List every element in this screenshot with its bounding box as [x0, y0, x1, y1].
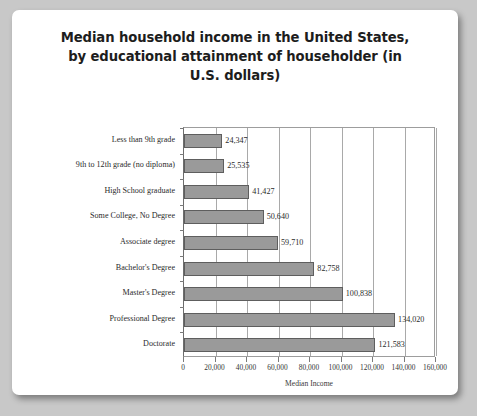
chart-title-line-2: by educational attainment of householder… [36, 47, 434, 66]
category-label: Some College, No Degree [90, 210, 175, 222]
x-axis-tick [404, 357, 405, 362]
x-axis-tick [246, 357, 247, 362]
category-label: Bachelor's Degree [116, 262, 175, 274]
category-tick [180, 307, 184, 308]
x-axis-tick-label: 20,000 [204, 363, 224, 373]
x-axis-tick-label: 60,000 [267, 363, 287, 373]
gridline [436, 128, 437, 356]
category-tick [180, 205, 184, 206]
category-tick [180, 332, 184, 333]
chart-title-line-3: U.S. dollars) [36, 66, 434, 85]
bar [184, 313, 395, 327]
x-axis-tick [215, 357, 216, 362]
category-tick [180, 128, 184, 129]
x-axis-title: Median Income [183, 379, 435, 388]
category-label: Less than 9th grade [112, 134, 175, 146]
category-label: Professional Degree [110, 313, 175, 325]
bar [184, 159, 224, 173]
chart-title: Median household income in the United St… [36, 28, 434, 85]
x-axis-tick-label: 120,000 [360, 363, 384, 373]
chart-plot-wrapper: Less than 9th grade9th to 12th grade (no… [33, 114, 437, 382]
bar [184, 262, 314, 276]
category-label: Master's Degree [123, 287, 175, 299]
bar-value-label: 50,640 [267, 211, 289, 223]
category-tick [180, 256, 184, 257]
x-axis-tick-label: 100,000 [328, 363, 352, 373]
bar-value-label: 24,347 [225, 135, 247, 147]
value-axis-ticks: 020,00040,00060,00080,000100,000120,0001… [183, 357, 435, 363]
category-axis-labels: Less than 9th grade9th to 12th grade (no… [33, 127, 179, 357]
category-tick [180, 179, 184, 180]
scanned-page: Median household income in the United St… [12, 10, 458, 395]
bar-value-label: 59,710 [281, 237, 303, 249]
category-label: Associate degree [120, 236, 175, 248]
bar [184, 236, 278, 250]
bar-value-label: 121,583 [378, 339, 404, 351]
category-tick [180, 281, 184, 282]
x-axis-tick [435, 357, 436, 362]
x-axis-tick [278, 357, 279, 362]
bar [184, 210, 264, 224]
x-axis-tick [183, 357, 184, 362]
bar-value-label: 134,020 [398, 314, 424, 326]
bar [184, 338, 375, 352]
category-label: High School graduate [104, 185, 175, 197]
bar-value-label: 82,758 [317, 263, 339, 275]
x-axis-tick-label: 80,000 [299, 363, 319, 373]
x-axis-tick [372, 357, 373, 362]
x-axis-tick [341, 357, 342, 362]
bar-value-label: 100,838 [346, 288, 372, 300]
x-axis-tick [309, 357, 310, 362]
bar [184, 134, 222, 148]
category-tick [180, 230, 184, 231]
x-axis-tick-label: 0 [181, 363, 185, 373]
category-label: Doctorate [143, 338, 175, 350]
x-axis-tick-label: 140,000 [391, 363, 415, 373]
bar-value-label: 41,427 [252, 186, 274, 198]
bar-value-label: 25,535 [227, 160, 249, 172]
x-axis-tick-label: 160,000 [423, 363, 447, 373]
plot-area: 24,34725,53541,42750,64059,71082,758100,… [183, 127, 435, 357]
category-label: 9th to 12th grade (no diploma) [76, 159, 175, 171]
x-axis-tick-label: 40,000 [236, 363, 256, 373]
category-tick [180, 154, 184, 155]
bar [184, 185, 249, 199]
chart-title-line-1: Median household income in the United St… [36, 28, 434, 47]
bar [184, 287, 343, 301]
